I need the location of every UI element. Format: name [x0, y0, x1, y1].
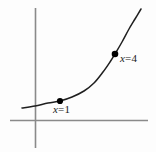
data-point-x4	[112, 51, 119, 58]
label-x1-value: 1	[65, 103, 71, 115]
label-x4-value: 4	[132, 52, 138, 64]
label-x-equals-4: x=4	[120, 53, 137, 64]
label-x-equals-1: x=1	[53, 104, 70, 115]
exponential-curve-figure: x=1 x=4	[0, 0, 156, 152]
plot-canvas	[0, 0, 156, 152]
